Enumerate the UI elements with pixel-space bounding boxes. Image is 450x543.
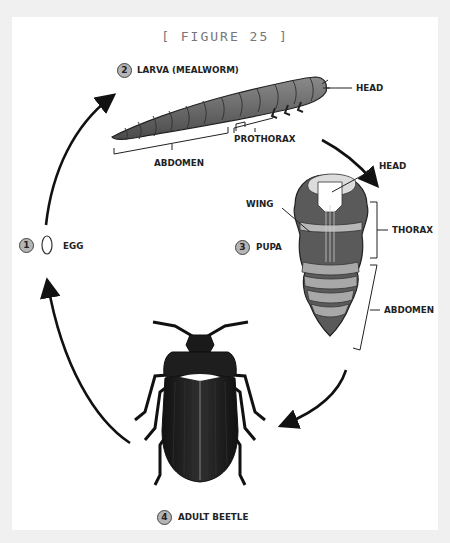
larva-illustration	[112, 77, 352, 154]
stage-4-number: 4	[157, 510, 172, 525]
pupa-thorax-bracket	[370, 202, 377, 258]
stage-2-number: 2	[117, 63, 132, 78]
stage-3-number: 3	[235, 240, 250, 255]
stage-1-number: 1	[19, 238, 34, 253]
arrow-adult-to-egg	[48, 285, 130, 443]
larva-abdomen-label: ABDOMEN	[154, 157, 204, 168]
pupa-abdomen-label: ABDOMEN	[384, 304, 434, 315]
stage-2-label: LARVA (MEALWORM)	[137, 64, 239, 75]
egg-illustration	[42, 236, 52, 254]
pupa-thorax-label: THORAX	[392, 224, 433, 235]
stage-3-label: PUPA	[256, 241, 282, 252]
pupa-wing-label: WING	[246, 198, 273, 209]
stage-1-label: EGG	[63, 240, 83, 251]
larva-prothorax-label: PROTHORAX	[234, 133, 296, 144]
larva-head-label: HEAD	[356, 82, 383, 93]
arrow-egg-to-larva	[46, 98, 110, 225]
arrow-pupa-to-adult	[285, 370, 346, 424]
pupa-head-label: HEAD	[379, 160, 406, 171]
stage-4-label: ADULT BEETLE	[178, 511, 248, 522]
beetle-illustration	[135, 322, 265, 485]
pupa-illustration	[282, 170, 388, 350]
